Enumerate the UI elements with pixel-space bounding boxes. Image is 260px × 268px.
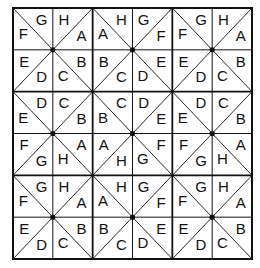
cell-letter: E [19, 53, 29, 70]
cell-letter: H [116, 178, 127, 195]
cell-letter: F [157, 136, 166, 153]
cell-letter: A [236, 136, 246, 153]
cell-letter: D [137, 234, 148, 251]
cell-letter: D [196, 236, 207, 253]
cell-letter: C [58, 67, 69, 84]
vertex-dot [130, 215, 135, 220]
cell-letter: D [138, 94, 149, 111]
cell-letter: G [138, 11, 150, 28]
cell-letter: A [98, 25, 108, 42]
cell-letter: B [236, 110, 246, 127]
cell-letter: C [58, 234, 69, 251]
cell-letter: H [58, 150, 69, 167]
cell-letter: A [77, 194, 87, 211]
cell-letter: A [77, 136, 87, 153]
cell-letter: E [156, 110, 166, 127]
cell-letter: G [138, 178, 150, 195]
cell-letter: E [156, 53, 166, 70]
cell-letter: B [77, 110, 87, 127]
cell-letter: A [99, 136, 109, 153]
vertex-dot [50, 131, 55, 136]
cell-letter: C [217, 67, 228, 84]
cell-letter: B [99, 220, 109, 237]
vertex-dot [130, 47, 135, 52]
cell-letter: C [116, 94, 127, 111]
cell-letter: B [77, 220, 87, 237]
cell-letter: F [20, 136, 29, 153]
cell-letter: C [59, 94, 70, 111]
vertex-dot [50, 47, 55, 52]
cell-letter: D [36, 94, 47, 111]
cell-letter: H [116, 11, 127, 28]
cell-letter: F [19, 25, 28, 42]
cell-letter: B [98, 109, 108, 126]
cell-letter: D [137, 67, 148, 84]
cell-letter: H [218, 178, 229, 195]
cell-letter: E [19, 220, 29, 237]
cell-letter: F [19, 192, 28, 209]
cell-letter: D [196, 94, 207, 111]
cell-letter: E [178, 53, 188, 70]
cell-letter: D [196, 68, 207, 85]
cell-letter: F [178, 25, 187, 42]
cell-letter: A [98, 192, 108, 209]
cell-letter: B [236, 220, 246, 237]
cell-letter: E [178, 220, 188, 237]
cell-letter: B [77, 53, 87, 70]
cell-letter: C [116, 236, 127, 253]
cell-letter: D [36, 68, 47, 85]
cell-letter: G [36, 152, 48, 169]
cell-letter: G [36, 178, 48, 195]
cell-letter: G [195, 11, 207, 28]
cell-letter: G [36, 11, 48, 28]
cell-letter: F [178, 192, 187, 209]
cell-letter: H [218, 11, 229, 28]
cell-letter: A [236, 194, 246, 211]
vertex-dot [210, 215, 215, 220]
vertex-dot [130, 131, 135, 136]
vertex-dot [50, 215, 55, 220]
cell-letter: E [156, 220, 166, 237]
letter-triangle-grid: FGHAAHGFFGHAEDCBBCDEEDCBEDCBBCDEEDCBFGHA… [0, 0, 260, 268]
cell-letter: H [217, 150, 228, 167]
vertex-dot [210, 131, 215, 136]
cell-letter: H [59, 178, 70, 195]
cell-letter: H [59, 11, 70, 28]
cell-letter: C [217, 234, 228, 251]
cell-letter: G [195, 152, 207, 169]
cell-letter: G [137, 150, 149, 167]
cell-letter: F [179, 136, 188, 153]
cell-letter: E [178, 109, 188, 126]
cell-letter: F [157, 194, 166, 211]
cell-letter: H [116, 152, 127, 169]
cell-letter: D [36, 236, 47, 253]
cell-letter: A [236, 27, 246, 44]
cell-letter: B [236, 53, 246, 70]
cell-letter: F [157, 27, 166, 44]
cell-letter: E [18, 109, 28, 126]
cell-letter: A [77, 27, 87, 44]
vertex-dot [210, 47, 215, 52]
cell-letter: C [116, 68, 127, 85]
cell-letter: G [195, 178, 207, 195]
cell-letter: B [99, 53, 109, 70]
cell-letter: C [218, 94, 229, 111]
